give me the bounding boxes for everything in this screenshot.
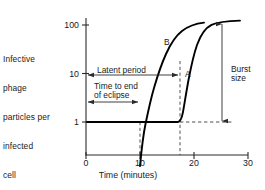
y-tick-label-1: 1 [53,117,79,127]
one-step-growth-curve-figure: Infective phage particles per infected c… [0,0,265,190]
curve-b-path [140,23,204,166]
eclipse-label-line-2: of eclipse [94,91,129,101]
x-tick-label-10: 10 [130,158,150,168]
burst-size-label-line-2: size [231,74,246,84]
x-tick-label-30: 30 [238,158,258,168]
latent-period-label: Latent period [97,66,146,76]
y-tick-label-10: 10 [53,69,79,79]
y-axis-title: Infective phage particles per infected c… [3,36,61,190]
x-tick-label-0: 0 [76,158,96,168]
x-tick-label-20: 20 [184,158,204,168]
y-axis-title-line-4: infected [3,142,61,152]
x-axis-title: Time (minutes) [99,170,157,180]
curve-label-b: B [164,38,170,48]
y-tick-label-100: 100 [53,20,79,30]
y-axis-title-line-1: Infective [3,55,61,65]
y-axis-title-line-2: phage [3,84,61,94]
y-axis-title-line-5: cell [3,171,61,181]
curve-label-a: A [185,70,191,80]
